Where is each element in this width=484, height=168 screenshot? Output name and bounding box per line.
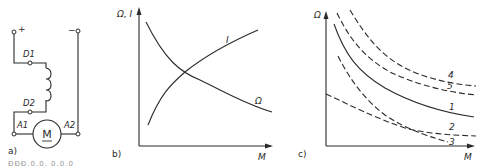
a1-label: A1 (16, 120, 28, 130)
current-curve-label: I (226, 35, 229, 45)
x-axis-label: M (258, 152, 266, 162)
figure-caption: ĐĐĐ.0.0. 0.0.0 (8, 160, 74, 168)
speed-curve (146, 22, 272, 112)
panel-b-label: b) (112, 149, 121, 159)
y-axis-arrow-icon (137, 7, 142, 15)
curve-3-label: 3 (449, 137, 455, 147)
node-a2 (76, 132, 80, 136)
motor-symbol: M (42, 128, 52, 141)
curve-4-label: 4 (448, 70, 454, 80)
circuit-diagram: + D1 D2 A1 M A2 − a) (8, 24, 80, 156)
wire-d1-coil (32, 63, 46, 68)
d1-label: D1 (23, 49, 35, 59)
d2-label: D2 (23, 98, 35, 108)
chart-b: Ω, I M I Ω b) (112, 7, 273, 162)
curve-5-label: 5 (447, 81, 453, 91)
x-axis-arrow-icon (265, 144, 273, 149)
curve-3 (338, 56, 448, 142)
panel-c-label: c) (298, 149, 306, 159)
curve-1-label: 1 (449, 102, 455, 112)
panel-a-label: a) (8, 146, 17, 156)
curve-5 (337, 13, 476, 95)
x-axis-label: M (464, 152, 472, 162)
minus-label: − (68, 25, 76, 35)
figure: + D1 D2 A1 M A2 − a) (0, 0, 484, 168)
node-d1 (28, 61, 32, 65)
curve-4 (350, 10, 476, 86)
chart-c: Ω M 4 5 1 2 3 c) (298, 10, 476, 162)
field-coil-icon (46, 68, 51, 101)
curve-2-label: 2 (449, 122, 455, 132)
a2-label: A2 (63, 120, 75, 130)
node-d2 (28, 110, 32, 114)
plus-label: + (18, 24, 26, 34)
y-axis-arrow-icon (324, 11, 329, 19)
y-axis-label: Ω, I (116, 9, 133, 19)
plus-terminal (12, 30, 16, 34)
y-axis-label: Ω (313, 10, 321, 20)
x-axis-arrow-icon (467, 144, 475, 149)
node-a1 (12, 132, 16, 136)
speed-curve-label: Ω (254, 96, 262, 106)
minus-terminal (76, 29, 80, 33)
current-curve (148, 30, 258, 125)
